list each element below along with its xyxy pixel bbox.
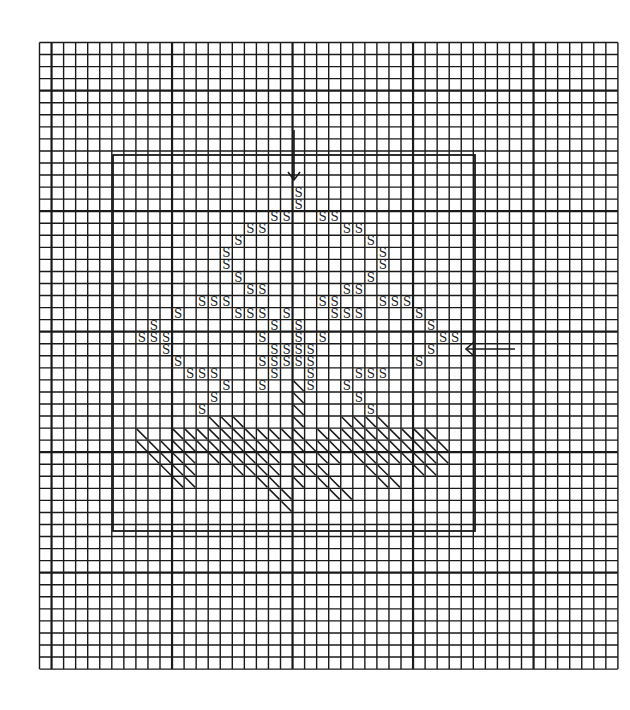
diagonal-stitch: [306, 441, 316, 451]
diagonal-stitch: [209, 417, 219, 427]
diagonal-stitch: [366, 417, 376, 427]
s-stitch-symbol: S: [162, 343, 170, 357]
diagonal-stitch: [402, 429, 412, 439]
diagonal-stitch: [294, 465, 304, 475]
s-stitch-symbol: S: [343, 307, 351, 321]
diagonal-stitch: [137, 441, 147, 451]
diagonal-stitch: [330, 429, 340, 439]
diagonal-stitch: [245, 429, 255, 439]
s-stitch-symbol: S: [355, 367, 363, 381]
diagonal-stitch: [426, 453, 436, 463]
diagonal-stitch: [366, 441, 376, 451]
s-stitch-symbol: S: [222, 295, 230, 309]
s-stitch-symbol: S: [210, 295, 218, 309]
s-stitch-symbol: S: [391, 295, 399, 309]
s-stitch-symbol: S: [210, 391, 218, 405]
s-stitch-symbol: S: [282, 210, 290, 224]
s-stitch-symbol: S: [198, 403, 206, 417]
diagonal-stitch: [402, 453, 412, 463]
diagonal-stitch: [221, 417, 231, 427]
s-stitch-symbol: S: [198, 367, 206, 381]
s-stitch-symbol: S: [367, 403, 375, 417]
diagonal-stitch: [294, 381, 304, 391]
diagonal-stitch: [269, 453, 279, 463]
diagonal-stitch: [245, 465, 255, 475]
diagonal-stitch: [378, 477, 388, 487]
diagonal-stitch: [197, 441, 207, 451]
s-stitch-symbol: S: [246, 283, 254, 297]
s-stitch-symbol: S: [234, 271, 242, 285]
diagonal-stitch: [173, 477, 183, 487]
diagonal-stitch: [318, 441, 328, 451]
s-stitch-symbol: S: [270, 367, 278, 381]
diagonal-stitch: [378, 417, 388, 427]
diagonal-stitch: [294, 441, 304, 451]
diagonal-stitch: [137, 429, 147, 439]
s-stitch-symbol: S: [343, 379, 351, 393]
diagonal-stitch: [354, 441, 364, 451]
diagonal-stitch: [221, 441, 231, 451]
diagonal-stitch: [221, 429, 231, 439]
diagonal-stitch: [257, 453, 267, 463]
diagonal-stitch: [197, 429, 207, 439]
s-stitch-symbol: S: [294, 198, 302, 212]
s-stitch-symbol: S: [234, 307, 242, 321]
diagonal-stitch: [390, 477, 400, 487]
diagonal-stitch: [185, 465, 195, 475]
s-stitch-symbol: S: [210, 367, 218, 381]
diagonal-stitch: [318, 429, 328, 439]
s-stitch-symbol: S: [355, 307, 363, 321]
s-stitch-symbol: S: [246, 307, 254, 321]
diagonal-stitch: [378, 453, 388, 463]
diagonal-stitch: [149, 453, 159, 463]
diagonal-stitch: [366, 465, 376, 475]
s-stitch-symbol: S: [222, 379, 230, 393]
diagonal-stitch: [414, 453, 424, 463]
diagonal-stitch: [330, 477, 340, 487]
diagonal-stitch: [390, 429, 400, 439]
s-stitch-symbol: S: [294, 355, 302, 369]
s-stitch-symbol: S: [258, 355, 266, 369]
s-stitch-symbol: S: [246, 222, 254, 236]
diagonal-stitch: [438, 453, 448, 463]
diagonal-stitch: [233, 465, 243, 475]
s-stitch-symbol: S: [403, 295, 411, 309]
diagonal-stitch: [294, 405, 304, 415]
s-stitch-symbol: S: [367, 234, 375, 248]
diagonal-stitch: [378, 429, 388, 439]
s-stitch-symbol: S: [379, 258, 387, 272]
diagonal-stitch: [185, 453, 195, 463]
s-stitch-symbol: S: [174, 307, 182, 321]
s-stitch-symbol: S: [331, 307, 339, 321]
chart-canvas: SSSSSSSSSSSSSSSSSSSSSSSSSSSSSSSSSSSSSSSS…: [0, 0, 630, 710]
diagonal-stitch: [294, 453, 304, 463]
s-symbols: SSSSSSSSSSSSSSSSSSSSSSSSSSSSSSSSSSSSSSSS…: [138, 186, 460, 417]
diagonal-stitch: [378, 441, 388, 451]
s-stitch-symbol: S: [258, 379, 266, 393]
diagonal-stitch: [330, 453, 340, 463]
diagonal-stitch: [354, 429, 364, 439]
diagonal-stitch: [294, 393, 304, 403]
diagonal-stitch: [269, 441, 279, 451]
s-stitch-symbol: S: [138, 331, 146, 345]
diagonal-stitch: [269, 429, 279, 439]
diagonal-stitch: [161, 441, 171, 451]
s-stitch-symbol: S: [319, 331, 327, 345]
s-stitch-symbol: S: [282, 307, 290, 321]
diagonal-stitch: [257, 441, 267, 451]
grid-lines: [40, 43, 618, 670]
diagonal-stitch: [366, 429, 376, 439]
diagonal-stitch: [390, 453, 400, 463]
s-stitch-symbol: S: [186, 367, 194, 381]
diagonal-stitch: [209, 441, 219, 451]
s-stitch-symbol: S: [174, 355, 182, 369]
diagonal-stitch: [426, 465, 436, 475]
diagonal-stitch: [342, 489, 352, 499]
s-stitch-symbol: S: [222, 258, 230, 272]
s-stitch-symbol: S: [367, 271, 375, 285]
diagonal-stitch: [414, 465, 424, 475]
diagonal-stitch: [390, 441, 400, 451]
diagonal-stitch: [245, 453, 255, 463]
diagonal-stitch: [354, 453, 364, 463]
s-stitch-symbol: S: [451, 331, 459, 345]
